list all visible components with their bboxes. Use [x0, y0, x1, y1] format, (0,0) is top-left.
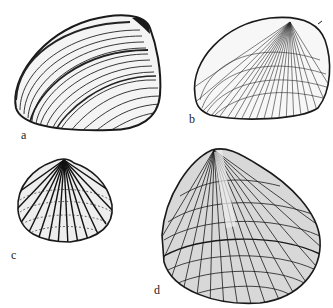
shell-b — [190, 17, 332, 126]
shell-d — [160, 149, 322, 308]
shell-drawings — [0, 0, 333, 308]
label-c: c — [11, 249, 16, 261]
shell-illustration-figure: a b c d — [0, 0, 333, 308]
shell-c — [16, 159, 114, 246]
label-a: a — [21, 129, 26, 141]
label-d: d — [154, 284, 160, 296]
shell-a — [15, 15, 160, 133]
label-b: b — [189, 113, 195, 125]
